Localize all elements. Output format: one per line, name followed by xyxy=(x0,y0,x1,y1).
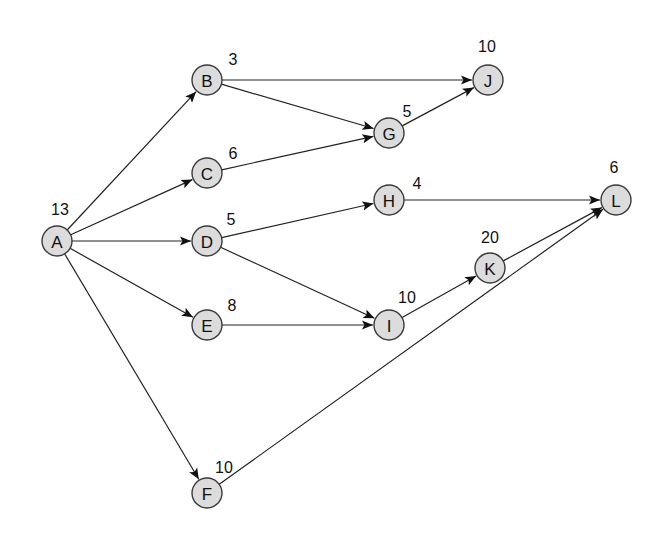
duration-label: 4 xyxy=(413,175,422,192)
node-d: D5 xyxy=(192,211,236,257)
edge-f-l xyxy=(219,209,603,484)
node-label: A xyxy=(51,233,63,252)
node-e: E8 xyxy=(192,297,237,341)
node-h: H4 xyxy=(374,175,422,216)
duration-label: 6 xyxy=(229,145,238,162)
node-b: B3 xyxy=(192,51,238,96)
duration-label: 10 xyxy=(398,289,416,306)
duration-label: 20 xyxy=(481,229,499,246)
edge-b-g xyxy=(221,84,373,128)
node-label: I xyxy=(387,317,392,336)
node-label: D xyxy=(201,233,213,252)
edge-a-e xyxy=(70,248,193,317)
activity-network-diagram: A13B3C6D5E8F10G5H4I10J10K20L6 xyxy=(0,0,664,535)
duration-label: 13 xyxy=(51,201,69,218)
node-g: G5 xyxy=(374,103,412,149)
node-label: B xyxy=(201,72,212,91)
node-k: K20 xyxy=(475,229,505,284)
node-label: K xyxy=(484,260,496,279)
edge-g-j xyxy=(402,88,474,126)
node-i: I10 xyxy=(374,289,416,341)
duration-label: 10 xyxy=(215,459,233,476)
node-label: L xyxy=(611,192,620,211)
node-label: J xyxy=(484,72,493,91)
edge-k-l xyxy=(503,208,602,261)
edge-a-b xyxy=(67,92,196,230)
node-label: E xyxy=(201,317,212,336)
nodes-layer: A13B3C6D5E8F10G5H4I10J10K20L6 xyxy=(42,38,631,509)
node-label: F xyxy=(202,485,212,504)
duration-label: 10 xyxy=(478,38,496,55)
node-a: A13 xyxy=(42,201,72,257)
node-j: J10 xyxy=(473,38,503,96)
edge-d-i xyxy=(221,247,375,318)
edge-c-g xyxy=(222,136,374,169)
edge-d-h xyxy=(222,204,374,238)
edges-layer xyxy=(65,80,603,484)
duration-label: 5 xyxy=(227,211,236,228)
edge-a-f xyxy=(65,254,199,479)
duration-label: 6 xyxy=(610,159,619,176)
node-l: L6 xyxy=(601,159,631,216)
duration-label: 8 xyxy=(228,297,237,314)
node-label: G xyxy=(382,125,395,144)
node-f: F10 xyxy=(192,459,233,509)
duration-label: 5 xyxy=(403,103,412,120)
duration-label: 3 xyxy=(229,51,238,68)
node-label: C xyxy=(201,165,213,184)
node-label: H xyxy=(383,192,395,211)
node-c: C6 xyxy=(192,145,238,189)
